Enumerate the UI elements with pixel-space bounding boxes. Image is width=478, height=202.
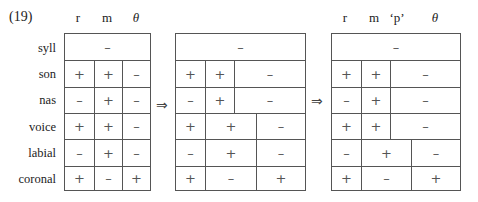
feature-value: +	[176, 61, 205, 87]
feature-value: –	[390, 61, 460, 87]
column-header-m: m	[364, 10, 384, 26]
feature-value: +	[205, 88, 234, 113]
column-header-theta: θ	[126, 10, 146, 26]
feature-value: –	[234, 88, 305, 113]
feature-label-labial: labial	[0, 146, 56, 161]
column-header-r: r	[335, 10, 355, 26]
matrix-row-nas: – + –	[332, 87, 460, 113]
feature-value: +	[176, 167, 205, 190]
feature-value: +	[122, 167, 150, 190]
matrix-row-labial: – + –	[332, 139, 460, 166]
column-header-theta: θ	[425, 10, 445, 26]
feature-value: +	[176, 114, 205, 139]
feature-value: –	[122, 114, 150, 139]
feature-value: –	[332, 140, 361, 166]
matrix-row-nas: – + –	[65, 87, 150, 113]
feature-value: +	[332, 61, 361, 87]
feature-value: –	[411, 140, 460, 166]
example-number: (19)	[9, 9, 32, 25]
derivation-arrow-icon: ⇒	[311, 93, 323, 109]
feature-matrix-underlying: – + + – – + – + + – – + – + – +	[64, 33, 151, 191]
matrix-row-son: + + –	[65, 60, 150, 87]
feature-value: –	[122, 140, 150, 166]
matrix-row-son: + + –	[332, 60, 460, 87]
matrix-row-son: + + –	[176, 60, 305, 87]
feature-value: +	[361, 88, 390, 113]
feature-value: –	[94, 167, 122, 190]
feature-value: –	[176, 34, 305, 60]
feature-value: +	[94, 140, 122, 166]
feature-matrix-surface: – + + – – + – + + – – + – + – +	[331, 33, 461, 191]
feature-value: +	[332, 167, 361, 190]
matrix-row-voice: + + –	[65, 113, 150, 139]
matrix-row-voice: + + –	[176, 113, 305, 139]
feature-label-coronal: coronal	[0, 172, 56, 187]
matrix-row-syll: –	[65, 34, 150, 60]
matrix-row-labial: – + –	[65, 139, 150, 166]
feature-value: –	[390, 114, 460, 139]
feature-value: +	[205, 140, 256, 166]
feature-value: –	[205, 167, 256, 190]
feature-label-son: son	[0, 67, 56, 82]
column-header-p: ‘p’	[387, 10, 407, 26]
feature-label-nas: nas	[0, 93, 56, 108]
feature-value: +	[65, 114, 94, 139]
matrix-row-labial: – + –	[176, 139, 305, 166]
matrix-row-syll: –	[176, 34, 305, 60]
feature-value: +	[411, 167, 460, 190]
feature-value: +	[94, 114, 122, 139]
feature-value: –	[390, 88, 460, 113]
feature-value: –	[176, 88, 205, 113]
feature-value: +	[94, 61, 122, 87]
feature-value: –	[332, 34, 460, 60]
matrix-row-coronal: + – +	[65, 166, 150, 190]
feature-value: +	[65, 167, 94, 190]
feature-matrix-intermediate: – + + – – + – + + – – + – + – +	[175, 33, 306, 191]
derivation-arrow-icon: ⇒	[156, 97, 168, 113]
feature-value: –	[256, 140, 305, 166]
feature-value: +	[65, 61, 94, 87]
feature-value: –	[65, 140, 94, 166]
feature-value: +	[361, 140, 411, 166]
feature-value: +	[94, 88, 122, 113]
feature-label-syll: syll	[0, 41, 56, 56]
feature-value: –	[122, 61, 150, 87]
feature-value: –	[65, 34, 150, 60]
feature-value: +	[361, 61, 390, 87]
feature-value: –	[122, 88, 150, 113]
feature-value: –	[65, 88, 94, 113]
feature-label-voice: voice	[0, 120, 56, 135]
feature-value: +	[332, 114, 361, 139]
feature-value: –	[332, 88, 361, 113]
feature-value: –	[176, 140, 205, 166]
matrix-row-voice: + + –	[332, 113, 460, 139]
matrix-row-coronal: + – +	[176, 166, 305, 190]
feature-value: +	[205, 61, 234, 87]
feature-value: –	[256, 114, 305, 139]
feature-value: –	[361, 167, 411, 190]
matrix-row-nas: – + –	[176, 87, 305, 113]
feature-value: –	[234, 61, 305, 87]
column-header-r: r	[68, 10, 88, 26]
matrix-row-coronal: + – +	[332, 166, 460, 190]
feature-value: +	[205, 114, 256, 139]
matrix-row-syll: –	[332, 34, 460, 60]
feature-value: +	[256, 167, 305, 190]
column-header-m: m	[97, 10, 117, 26]
feature-value: +	[361, 114, 390, 139]
